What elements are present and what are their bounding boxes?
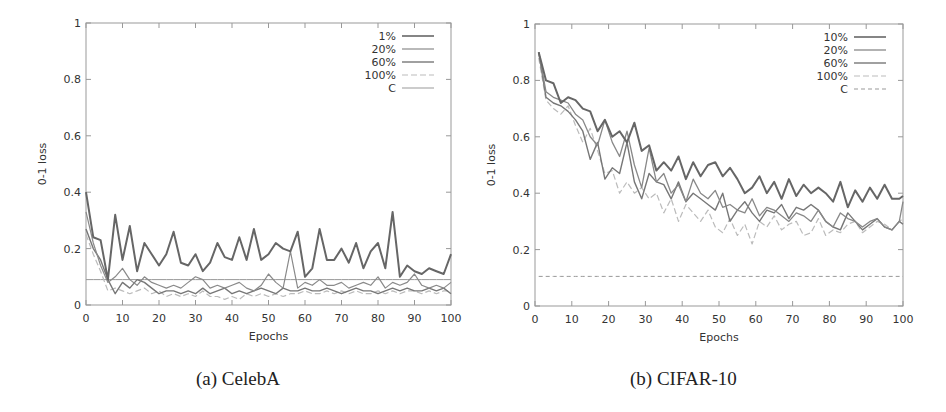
- x-tick-label: 70: [786, 313, 800, 326]
- x-tick-label: 60: [298, 312, 312, 325]
- plot-frame: [86, 23, 451, 305]
- x-tick-label: 10: [565, 313, 579, 326]
- line-chart-cifar10: 010203040506070809010000.20.40.60.81Epoc…: [470, 0, 946, 360]
- y-tick-label: 0: [74, 299, 81, 312]
- legend-label: 60%: [372, 56, 396, 69]
- y-tick-label: 0.4: [64, 186, 82, 199]
- x-tick-label: 70: [335, 312, 349, 325]
- y-tick-label: 0.2: [513, 244, 531, 257]
- legend-label: 100%: [817, 70, 848, 83]
- y-tick-label: 0.2: [64, 243, 82, 256]
- legend-label: 100%: [365, 69, 396, 82]
- legend-label: C: [388, 82, 396, 95]
- legend-label: 10%: [824, 31, 848, 44]
- y-axis-title: 0-1 loss: [36, 142, 49, 185]
- line-chart-celeba: 010203040506070809010000.20.40.60.81Epoc…: [0, 0, 470, 360]
- x-tick-label: 80: [822, 313, 836, 326]
- x-tick-label: 40: [675, 313, 689, 326]
- y-tick-label: 0.4: [513, 187, 531, 200]
- series-line-1pct: [86, 192, 451, 279]
- y-tick-label: 0.6: [513, 131, 531, 144]
- x-tick-label: 50: [262, 312, 276, 325]
- x-tick-label: 90: [859, 313, 873, 326]
- x-tick-label: 30: [189, 312, 203, 325]
- caption-celeba: (a) CelebA: [196, 368, 280, 390]
- x-tick-label: 20: [602, 313, 616, 326]
- y-tick-label: 1: [74, 17, 81, 30]
- x-tick-label: 100: [893, 313, 914, 326]
- legend-label: 20%: [372, 43, 396, 56]
- y-tick-label: 0.8: [64, 73, 82, 86]
- x-tick-label: 90: [408, 312, 422, 325]
- legend-label: 20%: [824, 44, 848, 57]
- x-tick-label: 30: [638, 313, 652, 326]
- x-axis-title: Epochs: [249, 330, 289, 343]
- legend-label: C: [840, 83, 848, 96]
- x-tick-label: 80: [371, 312, 385, 325]
- x-tick-label: 60: [749, 313, 763, 326]
- y-tick-label: 0: [523, 300, 530, 313]
- series-line-20pct: [539, 52, 903, 230]
- x-axis-title: Epochs: [699, 331, 739, 344]
- chart-panel-celeba: 010203040506070809010000.20.40.60.81Epoc…: [0, 0, 470, 412]
- y-tick-label: 1: [523, 18, 530, 31]
- caption-cifar10: (b) CIFAR-10: [630, 368, 737, 390]
- y-axis-title: 0-1 loss: [485, 143, 498, 186]
- legend-label: 1%: [379, 30, 396, 43]
- x-tick-label: 20: [152, 312, 166, 325]
- x-tick-label: 40: [225, 312, 239, 325]
- y-tick-label: 0.8: [513, 74, 531, 87]
- x-tick-label: 0: [532, 313, 539, 326]
- x-tick-label: 0: [83, 312, 90, 325]
- x-tick-label: 100: [441, 312, 462, 325]
- y-tick-label: 0.6: [64, 130, 82, 143]
- x-tick-label: 10: [116, 312, 130, 325]
- x-tick-label: 50: [712, 313, 726, 326]
- chart-panel-cifar10: 010203040506070809010000.20.40.60.81Epoc…: [470, 0, 946, 412]
- legend-label: 60%: [824, 57, 848, 70]
- series-line-10pct: [539, 52, 903, 207]
